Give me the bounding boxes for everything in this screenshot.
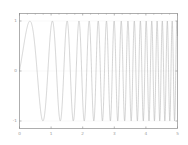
chart-figure: 012345 10-1 (0, 0, 188, 145)
plot-background (0, 0, 188, 145)
x-tick-label: 1 (50, 132, 53, 136)
x-tick-label: 3 (113, 132, 116, 136)
y-tick-label: 1 (6, 19, 17, 23)
x-tick-label: 2 (81, 132, 84, 136)
x-tick-label: 5 (176, 132, 179, 136)
x-tick-label: 4 (145, 132, 148, 136)
x-tick-label: 0 (18, 132, 21, 136)
y-tick-label: -1 (6, 119, 17, 123)
y-tick-label: 0 (6, 69, 17, 73)
chirp-plot-svg (0, 0, 188, 145)
